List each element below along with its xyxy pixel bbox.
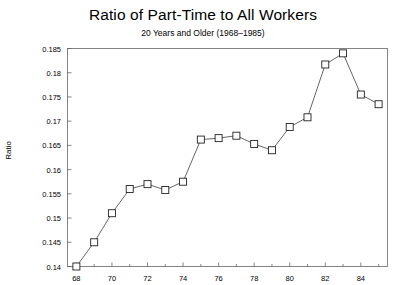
data-point-marker: [375, 101, 382, 108]
x-tick-label: 70: [108, 274, 116, 283]
data-point-marker: [180, 178, 187, 185]
data-point-marker: [73, 263, 80, 270]
data-point-marker: [286, 123, 293, 130]
x-tick-label: 72: [143, 274, 151, 283]
x-tick-label: 74: [179, 274, 187, 283]
data-point-marker: [322, 61, 329, 68]
y-tick-label: 0.16: [18, 165, 61, 174]
data-point-marker: [197, 136, 204, 143]
data-point-marker: [251, 140, 258, 147]
data-point-marker: [108, 210, 115, 217]
data-point-marker: [304, 114, 311, 121]
data-point-marker: [340, 50, 347, 57]
data-point-marker: [357, 91, 364, 98]
y-tick-label: 0.17: [18, 117, 61, 126]
y-tick-label: 0.18: [18, 68, 61, 77]
data-point-marker: [268, 147, 275, 154]
data-point-marker: [91, 239, 98, 246]
x-tick-label: 78: [250, 274, 258, 283]
y-tick-label: 0.15: [18, 214, 61, 223]
y-tick-label: 0.165: [18, 141, 61, 150]
data-point-marker: [162, 186, 169, 193]
data-point-marker: [215, 135, 222, 142]
x-tick-label: 80: [286, 274, 294, 283]
data-point-marker: [126, 185, 133, 192]
data-series-line: [76, 53, 378, 266]
x-tick-label: 82: [321, 274, 329, 283]
x-tick-label: 68: [72, 274, 80, 283]
plot-frame: [68, 49, 388, 267]
data-point-marker: [233, 132, 240, 139]
x-tick-label: 76: [214, 274, 222, 283]
data-point-marker: [144, 181, 151, 188]
y-tick-label: 0.145: [18, 238, 61, 247]
y-tick-label: 0.155: [18, 189, 61, 198]
x-tick-label: 84: [357, 274, 365, 283]
y-tick-label: 0.175: [18, 92, 61, 101]
y-tick-label: 0.185: [18, 44, 61, 53]
chart-figure: Ratio of Part-Time to All Workers 20 Yea…: [0, 0, 406, 285]
y-tick-label: 0.14: [18, 262, 61, 271]
